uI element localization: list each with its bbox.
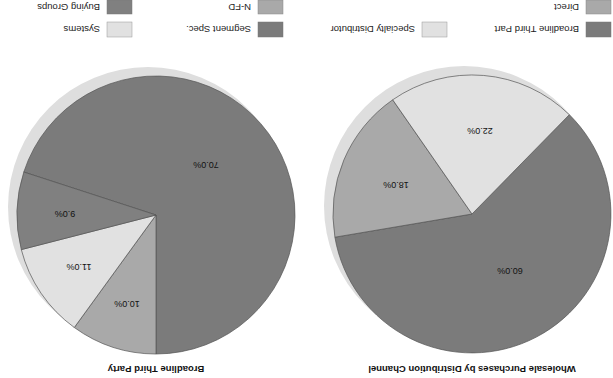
legend-label: Buying Groups	[37, 2, 100, 13]
legend-label: Broadline Third Part	[494, 24, 579, 35]
legend-label: Direct	[554, 2, 579, 13]
chart-title-broadline: Broadline Third Party	[107, 364, 204, 375]
label-broadline: 60.0%	[497, 266, 523, 276]
legend-swatch	[586, 0, 611, 14]
label-direct: 18.0%	[383, 180, 409, 190]
legend-item-specialty-distributor[interactable]: Specialty Distributor	[331, 22, 447, 37]
legend-swatch	[586, 22, 611, 37]
legend-swatch	[107, 22, 132, 37]
legend-item-buying-groups[interactable]: Buying Groups	[37, 0, 132, 14]
legend-left: N-FD Segment Spec. Buying Groups Systems	[37, 0, 283, 37]
label-n-fd: 10.0%	[114, 299, 140, 309]
charts-svg: 70.0% 10.0% 11.0% 9.0% Broadline Third P…	[0, 0, 613, 378]
legend-swatch	[422, 22, 447, 37]
legend-right: Direct Broadline Third Part Specialty Di…	[331, 0, 611, 37]
label-segment-spec: 70.0%	[193, 160, 219, 170]
chart-stage: 70.0% 10.0% 11.0% 9.0% Broadline Third P…	[0, 0, 613, 378]
legend-item-broadline-third-part[interactable]: Broadline Third Part	[494, 22, 611, 37]
legend-item-systems[interactable]: Systems	[63, 22, 132, 37]
legend-label: Segment Spec.	[186, 24, 251, 35]
legend-swatch	[258, 0, 283, 14]
label-systems: 11.0%	[67, 262, 92, 272]
legend-swatch	[107, 0, 132, 14]
label-specialty: 22.0%	[467, 126, 493, 136]
legend-label: Specialty Distributor	[331, 24, 415, 35]
legend-label: Systems	[63, 24, 100, 35]
label-buying-groups: 9.0%	[55, 209, 76, 219]
pie-broadline-third-party: 70.0% 10.0% 11.0% 9.0% Broadline Third P…	[8, 67, 295, 375]
legend-label: N-FD	[228, 2, 251, 13]
chart-title-wholesale: Wholesale Purchases by Distribution Chan…	[368, 364, 575, 375]
legend-swatch	[258, 22, 283, 37]
legend-item-n-fd[interactable]: N-FD	[228, 0, 283, 14]
pie-wholesale-purchases: 60.0% 22.0% 18.0% Wholesale Purchases by…	[324, 66, 611, 375]
legend-item-direct[interactable]: Direct	[554, 0, 611, 14]
legend-item-segment-spec[interactable]: Segment Spec.	[186, 22, 283, 37]
